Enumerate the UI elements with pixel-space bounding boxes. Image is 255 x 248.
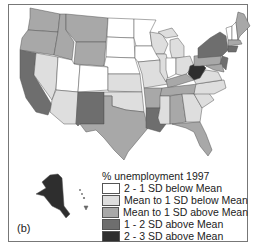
state-new-york — [198, 32, 228, 58]
state-new-mexico — [76, 92, 104, 126]
state-montana — [66, 14, 108, 42]
state-massachusetts — [228, 40, 242, 46]
legend-item: 2 - 3 SD above Mean — [98, 230, 248, 242]
panel-label: (b) — [17, 222, 30, 234]
state-hawaii — [79, 189, 88, 210]
state-nebraska — [104, 57, 140, 74]
state-maine — [236, 12, 250, 40]
state-mississippi — [158, 96, 170, 124]
state-washington — [28, 8, 60, 32]
legend-swatch — [102, 207, 119, 218]
state-south-dakota — [106, 37, 135, 58]
legend-label: 2 - 1 SD below Mean — [124, 183, 222, 194]
state-arkansas — [144, 88, 162, 108]
legend-item: 2 - 1 SD below Mean — [98, 182, 248, 194]
state-arizona — [50, 90, 78, 124]
legend-swatch — [102, 183, 120, 194]
legend-swatch — [102, 231, 120, 242]
legend-label: Mean to 1 SD above Mean — [123, 207, 248, 218]
state-michigan — [170, 38, 184, 58]
legend-item: Mean to 1 SD below Mean — [98, 194, 248, 206]
state-wyoming — [74, 42, 106, 66]
state-florida — [172, 122, 212, 156]
state-vermont — [226, 26, 232, 40]
legend-label: 2 - 3 SD above Mean — [124, 231, 223, 242]
legend-label: 1 - 2 SD above Mean — [124, 219, 223, 230]
legend-item: 1 - 2 SD above Mean — [98, 218, 248, 230]
state-connecticut-ri — [228, 46, 238, 52]
state-indiana — [166, 58, 176, 78]
state-alaska — [36, 174, 70, 218]
map-legend: % unemployment 1997 2 - 1 SD below Mean … — [98, 170, 248, 242]
state-north-dakota — [107, 18, 134, 38]
legend-swatch — [102, 219, 120, 230]
legend-label: Mean to 1 SD below Mean — [124, 195, 248, 206]
legend-title: % unemployment 1997 — [102, 170, 248, 182]
state-kansas — [108, 74, 142, 92]
legend-swatch — [102, 195, 120, 206]
state-colorado — [78, 65, 108, 92]
legend-item: Mean to 1 SD above Mean — [98, 206, 248, 218]
